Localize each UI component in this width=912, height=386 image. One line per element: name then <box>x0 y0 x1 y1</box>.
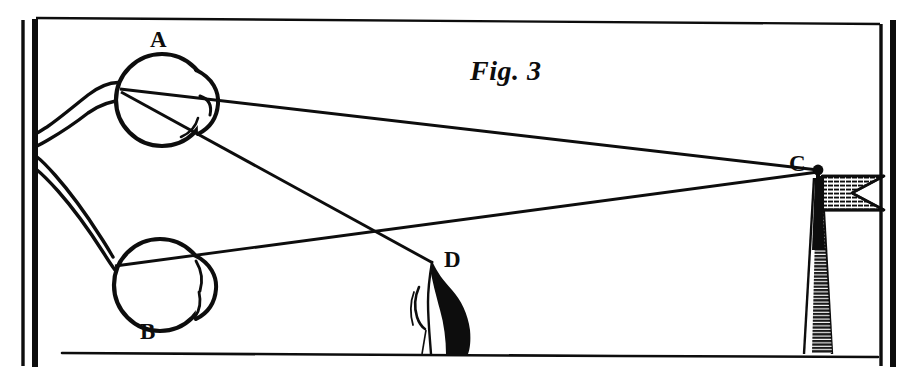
flagpole-finial-ball <box>813 165 824 176</box>
figure-plate: A B C D Fig. 3 <box>0 0 912 386</box>
flag-hoist-edge <box>820 176 824 210</box>
engraving-canvas <box>0 0 912 386</box>
figure-caption: Fig. 3 <box>470 57 541 85</box>
label-eye-A: A <box>150 28 167 51</box>
label-far-object-C: C <box>789 152 806 175</box>
label-eye-B: B <box>140 320 155 343</box>
label-near-object-D: D <box>444 248 461 271</box>
eye-B-globe <box>114 239 206 331</box>
